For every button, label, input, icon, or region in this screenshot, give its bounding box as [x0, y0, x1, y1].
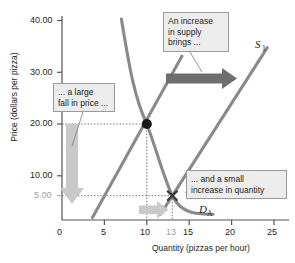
original-equilibrium-dot: [142, 119, 152, 129]
x-tick-label-13: 13: [166, 227, 176, 237]
price-fall-arrow: [60, 124, 84, 204]
x-tick-label-20: 20: [225, 227, 235, 237]
chart-canvas: S 0 S 1 D A: [0, 0, 295, 263]
x-tick-label-10: 10: [140, 227, 150, 237]
callout-quantity-increase: ... and a small increase in quantity: [186, 170, 287, 199]
x-tick-label-5: 5: [101, 227, 106, 237]
y-axis-title: Price (dollars per pizza): [9, 52, 19, 142]
x-tick-label-15: 15: [183, 227, 193, 237]
x-tick-label-0: 0: [57, 227, 62, 237]
y-tick-label-10: 10.00: [30, 170, 53, 180]
demand-sublabel: A: [207, 209, 213, 218]
callout-supply-increase: An increase in supply brings ...: [163, 12, 229, 52]
supply-demand-figure: S 0 S 1 D A 40.00 30.00 20.00 10.00 5.00…: [0, 0, 295, 263]
y-tick-label-20: 20.00: [30, 118, 53, 128]
callout-price-fall: ... a large fall in price ...: [53, 83, 115, 112]
x-tick-label-25: 25: [267, 227, 277, 237]
leader-supply-callout: [190, 52, 202, 72]
y-tick-label-30: 30.00: [30, 67, 53, 77]
quantity-increase-arrow: [139, 201, 169, 219]
supply-1-sublabel: 1: [262, 44, 266, 53]
demand-label: D: [198, 203, 207, 215]
x-axis-title: Quantity (pizzas per hour): [152, 243, 250, 253]
y-tick-label-40: 40.00: [30, 15, 53, 25]
supply-1-label: S: [255, 38, 261, 50]
y-tick-label-5: 5.00: [34, 190, 52, 200]
